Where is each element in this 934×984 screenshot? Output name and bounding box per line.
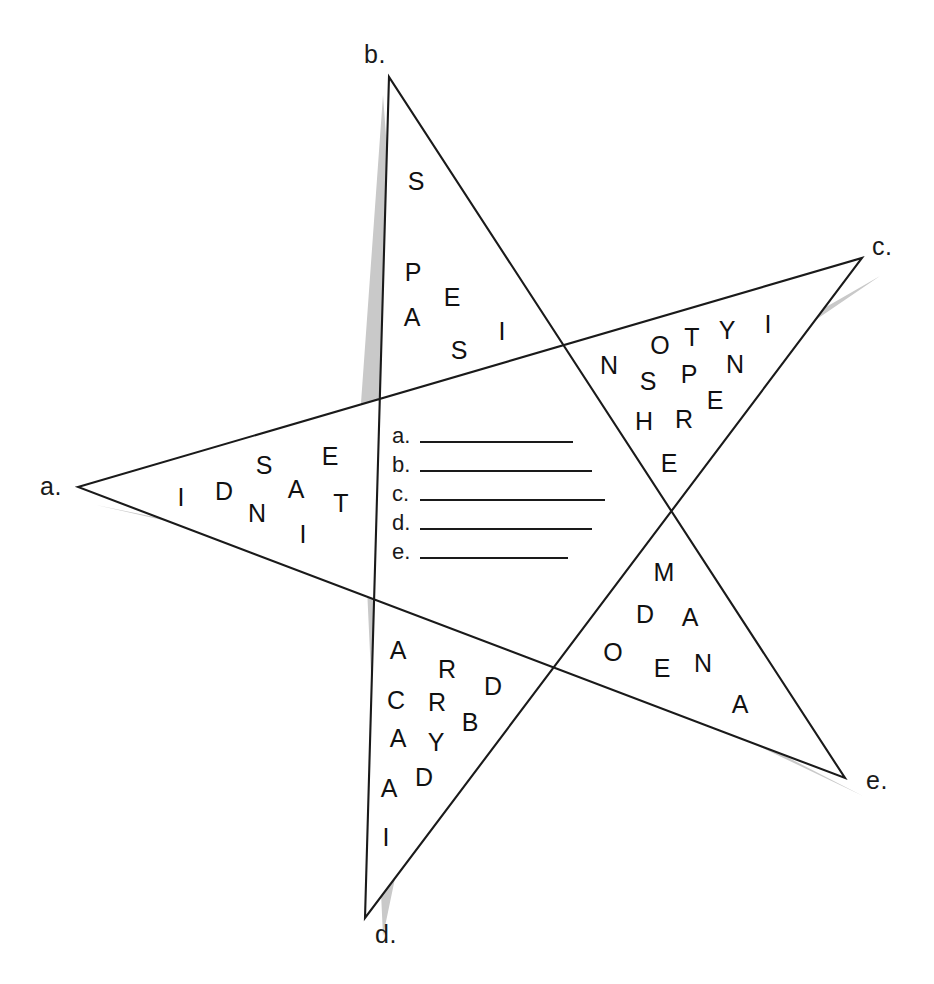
puzzle-letter-b_top-1: P (405, 258, 422, 287)
puzzle-letter-a_left-2: S (256, 451, 273, 480)
puzzle-letter-c_right-10: R (675, 405, 693, 434)
answer-row-a: a. (392, 423, 617, 452)
answer-row-e: e. (392, 539, 617, 568)
puzzle-letter-a_left-6: T (333, 489, 348, 518)
puzzle-letter-e_lower_right-2: A (682, 603, 699, 632)
puzzle-letter-e_lower_right-6: A (732, 690, 749, 719)
answer-row-b: b. (392, 452, 617, 481)
puzzle-letter-c_right-11: E (661, 449, 678, 478)
puzzle-letter-d_bottom-1: R (438, 655, 456, 684)
answer-row-d: d. (392, 510, 617, 539)
puzzle-letter-e_lower_right-4: E (654, 654, 671, 683)
puzzle-letter-d_bottom-4: R (428, 688, 446, 717)
puzzle-letter-c_right-4: I (765, 310, 772, 339)
answer-blank-b[interactable] (420, 457, 592, 472)
puzzle-letter-d_bottom-9: A (381, 774, 398, 803)
answer-label-d: d. (392, 510, 420, 536)
puzzle-letter-b_top-3: A (404, 303, 421, 332)
puzzle-letter-c_right-9: H (635, 407, 653, 436)
puzzle-letter-a_left-4: E (322, 442, 339, 471)
puzzle-letter-b_top-5: I (499, 317, 506, 346)
puzzle-letter-c_right-2: T (684, 323, 699, 352)
puzzle-letter-c_right-6: P (681, 360, 698, 389)
puzzle-letter-e_lower_right-0: M (654, 558, 675, 587)
puzzle-letter-a_left-7: I (300, 520, 307, 549)
point-label-e: e. (866, 766, 888, 795)
answer-label-b: b. (392, 452, 420, 478)
puzzle-letter-d_bottom-6: A (390, 724, 407, 753)
puzzle-letter-c_right-3: Y (719, 316, 736, 345)
puzzle-letter-b_top-4: S (451, 336, 468, 365)
point-label-b: b. (364, 40, 386, 69)
puzzle-letter-c_right-5: S (640, 367, 657, 396)
point-label-d: d. (375, 920, 397, 949)
puzzle-letter-d_bottom-7: Y (428, 728, 445, 757)
puzzle-letter-a_left-1: D (215, 477, 233, 506)
puzzle-letter-c_right-8: E (707, 386, 724, 415)
puzzle-letter-d_bottom-0: A (390, 636, 407, 665)
puzzle-letter-c_right-7: N (726, 350, 744, 379)
puzzle-letter-d_bottom-8: D (415, 763, 433, 792)
answer-blank-e[interactable] (420, 544, 568, 559)
puzzle-letter-c_right-1: O (650, 331, 669, 360)
point-label-c: c. (872, 232, 892, 261)
answer-label-e: e. (392, 539, 420, 565)
puzzle-letter-d_bottom-3: C (387, 686, 405, 715)
puzzle-letter-b_top-0: S (408, 167, 425, 196)
point-label-a: a. (40, 472, 62, 501)
worksheet-page: a. b. c. d. e. SPEASINOTYISPNEHREIDSAENT… (0, 0, 934, 984)
puzzle-letter-d_bottom-5: B (462, 708, 479, 737)
puzzle-letter-a_left-0: I (178, 483, 185, 512)
puzzle-letter-d_bottom-2: D (484, 672, 502, 701)
puzzle-letter-a_left-3: A (288, 475, 305, 504)
answer-blank-a[interactable] (420, 428, 573, 443)
answer-blank-c[interactable] (420, 486, 605, 501)
puzzle-letter-d_bottom-10: I (383, 823, 390, 852)
puzzle-letter-e_lower_right-3: O (603, 638, 622, 667)
puzzle-letter-b_top-2: E (444, 283, 461, 312)
answer-label-c: c. (392, 481, 420, 507)
answer-blank-d[interactable] (420, 515, 592, 530)
puzzle-letter-c_right-0: N (600, 351, 618, 380)
puzzle-letter-e_lower_right-5: N (694, 649, 712, 678)
answer-lines-block: a.b.c.d.e. (392, 423, 617, 568)
answer-row-c: c. (392, 481, 617, 510)
puzzle-letter-e_lower_right-1: D (636, 600, 654, 629)
answer-label-a: a. (392, 423, 420, 449)
puzzle-letter-a_left-5: N (248, 499, 266, 528)
